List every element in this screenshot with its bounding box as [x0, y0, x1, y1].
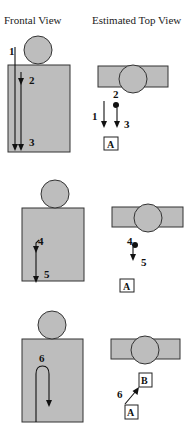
panel-3-top: B A 6 [111, 336, 180, 419]
top-view-header: Estimated Top View [92, 14, 181, 26]
label-2: 2 [29, 74, 35, 86]
label-6: 6 [117, 388, 123, 400]
label-5: 5 [44, 268, 50, 280]
panel-2-top: 4 5 A [112, 204, 183, 292]
box-a-label: A [127, 407, 135, 418]
diagram-canvas: Frontal View Estimated Top View 1 2 3 2 … [0, 0, 192, 436]
head [131, 336, 159, 364]
label-6: 6 [39, 352, 45, 364]
head [119, 65, 147, 93]
label-1: 1 [92, 110, 98, 122]
label-5: 5 [141, 256, 147, 268]
label-4: 4 [127, 235, 133, 247]
head [38, 311, 66, 339]
head [41, 180, 69, 208]
panel-1-frontal: 1 2 3 [8, 36, 70, 152]
head [24, 36, 52, 64]
label-4: 4 [38, 235, 44, 247]
torso [8, 65, 70, 152]
panel-3-frontal: 6 [22, 311, 83, 422]
arrow-6 [125, 391, 136, 404]
box-b-label: B [141, 375, 148, 386]
torso [22, 208, 84, 281]
arrowhead-3-icon [114, 121, 120, 128]
label-1: 1 [9, 45, 15, 57]
panel-1-top: 2 1 3 A [92, 65, 168, 150]
label-3: 3 [29, 136, 35, 148]
frontal-view-header: Frontal View [4, 14, 62, 26]
head [134, 204, 162, 232]
torso [22, 339, 83, 422]
arrowhead-1-icon [101, 121, 107, 128]
box-a-label: A [123, 281, 131, 292]
start-dot [113, 102, 119, 108]
box-a-label: A [107, 139, 115, 150]
label-3: 3 [124, 118, 130, 130]
label-2: 2 [113, 88, 119, 100]
arrowhead-5-icon [130, 254, 136, 261]
panel-2-frontal: 4 5 [22, 180, 84, 283]
